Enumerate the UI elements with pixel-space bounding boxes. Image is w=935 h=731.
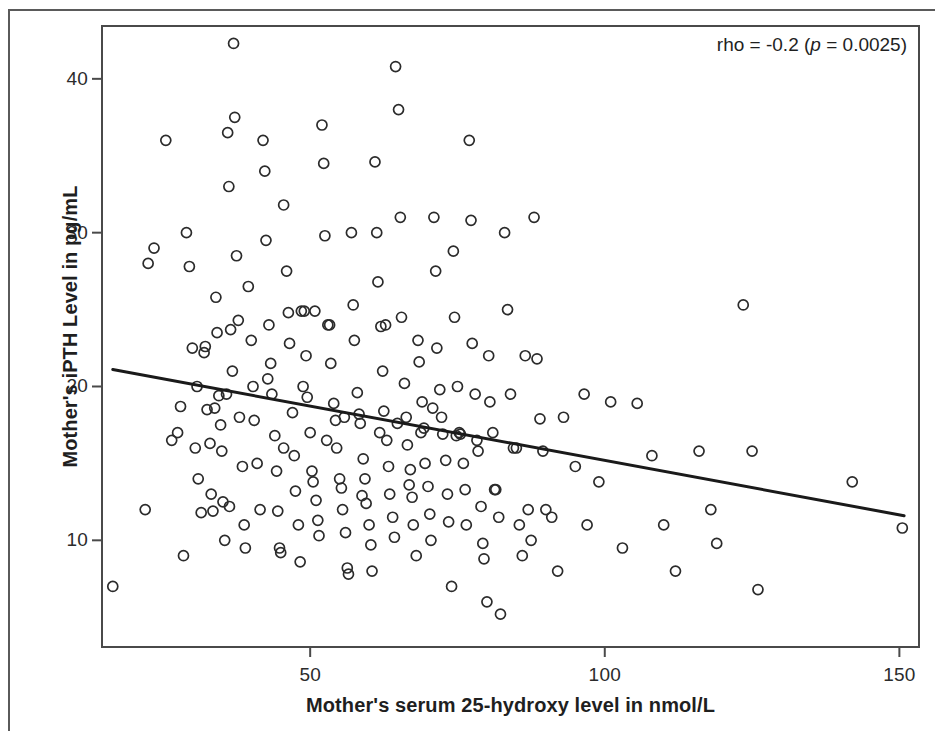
annotation-suffix: = 0.0025) (821, 34, 907, 55)
x-axis-title: Mother's serum 25-hydroxy level in nmol/… (101, 694, 920, 717)
document-border-left (8, 9, 10, 731)
x-axis-tick-label: 100 (589, 664, 621, 686)
y-axis-title: Mother's iPTH Level in pg/mL (59, 117, 82, 537)
annotation-p-symbol: p (810, 34, 821, 55)
annotation-prefix: rho = -0.2 ( (717, 34, 810, 55)
figure-container: 10203040 50100150 Mother's iPTH Level in… (0, 0, 935, 731)
x-axis-tick-label: 50 (299, 664, 321, 686)
y-axis-tick-label: 40 (40, 68, 88, 90)
plot-area-frame (101, 25, 920, 648)
x-axis-tick-label: 150 (883, 664, 915, 686)
correlation-annotation: rho = -0.2 (p = 0.0025) (717, 34, 907, 56)
document-border-top (8, 9, 935, 11)
